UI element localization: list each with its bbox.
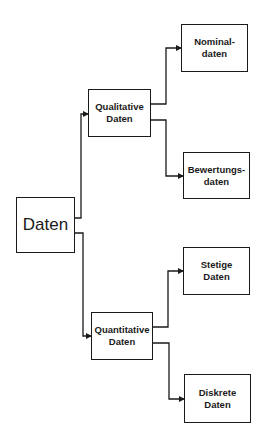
node-label: Quantitative Daten — [95, 324, 150, 348]
node-diskrete: Diskrete Daten — [184, 374, 251, 423]
node-label: Daten — [23, 215, 68, 235]
edge-qualitative-nominal — [151, 48, 181, 104]
node-label: Stetige Daten — [201, 259, 233, 283]
node-qualitative: Qualitative Daten — [88, 89, 151, 137]
edge-quantitative-diskrete — [153, 343, 184, 399]
node-label: Qualitative Daten — [95, 101, 144, 125]
node-nominal: Nominal- daten — [181, 24, 248, 72]
node-daten: Daten — [16, 197, 75, 253]
node-bewertungs: Bewertungs- daten — [183, 152, 250, 199]
edge-qualitative-bewertungs — [151, 120, 183, 176]
edge-daten-quantitative — [75, 233, 91, 336]
node-label: Bewertungs- daten — [188, 164, 246, 188]
node-stetige: Stetige Daten — [183, 247, 250, 295]
node-quantitative: Quantitative Daten — [91, 312, 153, 360]
node-label: Nominal- daten — [194, 36, 235, 60]
edge-daten-qualitative — [75, 114, 88, 218]
edge-quantitative-stetige — [153, 271, 183, 327]
node-label: Diskrete Daten — [199, 387, 237, 411]
